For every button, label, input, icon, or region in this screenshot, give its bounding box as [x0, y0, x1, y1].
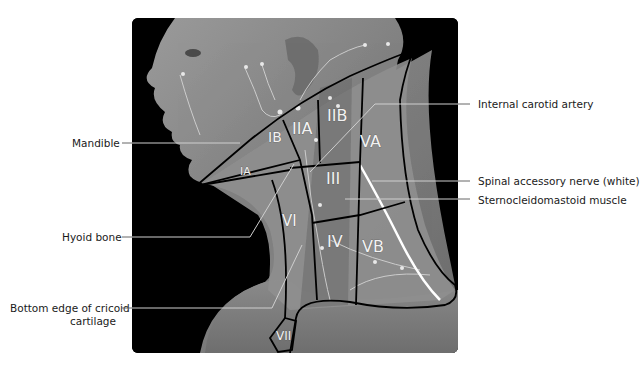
level-IV: IV — [327, 232, 343, 251]
eye — [185, 49, 201, 57]
anatomy-illustration: IA IB IIA IIB III IV VA VB VI VII — [132, 18, 458, 353]
level-IIA: IIA — [292, 119, 312, 138]
level-IB: IB — [268, 129, 282, 145]
level-VA: VA — [360, 132, 381, 151]
level-VII: VII — [276, 329, 291, 343]
anatomy-image: IA IB IIA IIB III IV VA VB VI VII — [132, 18, 458, 353]
level-IIB: IIB — [327, 106, 347, 125]
level-VI: VI — [282, 212, 297, 230]
level-IA: IA — [240, 165, 251, 178]
level-III: III — [326, 169, 340, 188]
level-VB: VB — [362, 237, 384, 256]
